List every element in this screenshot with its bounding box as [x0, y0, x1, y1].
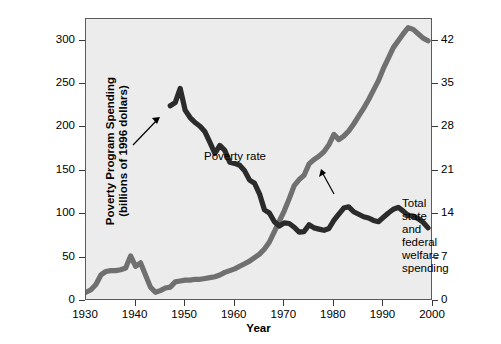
- y-axis-right-tickmark: [432, 170, 438, 171]
- y-axis-right-tick-label: 7: [441, 250, 481, 262]
- y-axis-right-tick-label: 0: [441, 293, 481, 305]
- annotation-welfare-line1: Total state and: [402, 197, 427, 235]
- x-axis-tickmark: [333, 300, 334, 306]
- y-axis-right-tick-label: 14: [441, 206, 481, 218]
- x-axis-title: Year: [85, 322, 432, 334]
- y-axis-left-title: Poverty Program Spending (billions of 19…: [104, 26, 130, 276]
- y-axis-right-tick-label: 21: [441, 163, 481, 175]
- x-axis-tick-label: 1950: [161, 308, 207, 320]
- y-axis-left-tick-label: 50: [31, 250, 75, 262]
- y-axis-left-tickmark: [79, 257, 85, 258]
- x-axis-tick-label: 1960: [211, 308, 257, 320]
- y-axis-right-tick-label: 28: [441, 119, 481, 131]
- y-axis-right-tickmark: [432, 40, 438, 41]
- y-axis-left-tickmark: [79, 213, 85, 214]
- y-axis-left-tick-label: 300: [31, 33, 75, 45]
- chart-figure: Poverty rate Total state andfederal welf…: [0, 0, 501, 344]
- plot-area: Poverty rate Total state andfederal welf…: [85, 18, 432, 300]
- y-axis-left-tick-label: 100: [31, 206, 75, 218]
- x-axis-tick-label: 1990: [359, 308, 405, 320]
- y-axis-left-title-line2: (billions of 1996 dollars): [117, 85, 129, 217]
- y-axis-left-title-line1: Poverty Program Spending: [104, 77, 116, 225]
- x-axis-tickmark: [234, 300, 235, 306]
- y-axis-left-tick-label: 200: [31, 119, 75, 131]
- x-axis-tick-label: 2000: [409, 308, 455, 320]
- y-axis-left-tickmark: [79, 83, 85, 84]
- x-axis-tick-label: 1940: [112, 308, 158, 320]
- x-axis-tick-label: 1980: [310, 308, 356, 320]
- x-axis-tickmark: [283, 300, 284, 306]
- y-axis-right-tick-label: 35: [441, 76, 481, 88]
- x-axis-tickmark: [184, 300, 185, 306]
- y-axis-right-tickmark: [432, 257, 438, 258]
- y-axis-right-tickmark: [432, 126, 438, 127]
- y-axis-left-tickmark: [79, 300, 85, 301]
- x-axis-tick-label: 1930: [62, 308, 108, 320]
- annotation-poverty-rate: Poverty rate: [204, 150, 266, 163]
- y-axis-left-tickmark: [79, 40, 85, 41]
- y-axis-left-tickmark: [79, 170, 85, 171]
- y-axis-right-tickmark: [432, 213, 438, 214]
- y-axis-left-tick-label: 0: [31, 293, 75, 305]
- y-axis-left-tick-label: 150: [31, 163, 75, 175]
- x-axis-tickmark: [382, 300, 383, 306]
- y-axis-right-tickmark: [432, 83, 438, 84]
- y-axis-left-tickmark: [79, 126, 85, 127]
- x-axis-tick-label: 1970: [260, 308, 306, 320]
- x-axis-tickmark: [432, 300, 433, 306]
- y-axis-right-tick-label: 42: [441, 33, 481, 45]
- y-axis-left-tick-label: 250: [31, 76, 75, 88]
- x-axis-tickmark: [135, 300, 136, 306]
